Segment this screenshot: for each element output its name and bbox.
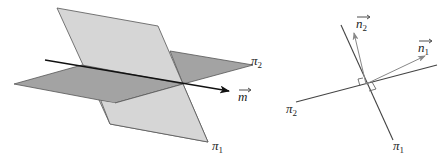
- label-m: m: [238, 88, 251, 104]
- label-n1: n1: [418, 39, 432, 57]
- left-figure: m π2 π1: [14, 8, 262, 155]
- label-n2: n2: [356, 15, 370, 33]
- svg-text:n2: n2: [356, 16, 367, 33]
- label-pi2-right: π2: [286, 101, 297, 118]
- label-pi1-right: π1: [393, 138, 404, 155]
- plane-pi2-back: [170, 51, 253, 84]
- svg-text:π2: π2: [251, 53, 262, 70]
- svg-text:π2: π2: [286, 101, 297, 118]
- svg-text:π1: π1: [393, 138, 404, 155]
- svg-text:π1: π1: [212, 138, 223, 155]
- right-figure: n2 n1 π2 π1: [286, 15, 437, 155]
- diagram-canvas: m π2 π1 n2 n1 π2: [0, 0, 447, 159]
- svg-text:m: m: [238, 89, 247, 104]
- label-pi2-left: π2: [251, 53, 262, 70]
- svg-text:n1: n1: [418, 40, 429, 57]
- label-pi1-left: π1: [212, 138, 223, 155]
- trace-pi1: [341, 25, 393, 140]
